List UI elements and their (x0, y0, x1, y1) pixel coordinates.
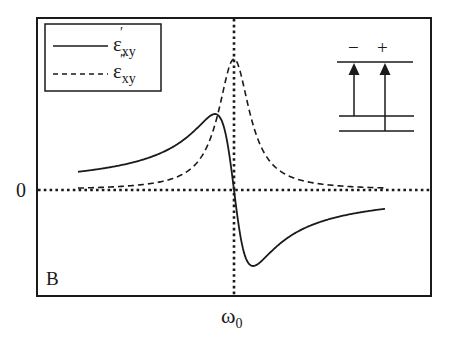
transition-label-plus: + (377, 38, 388, 57)
legend-prime-mark: ″ (120, 53, 126, 67)
panel-label: B (46, 269, 59, 288)
energy-level-diagram (337, 62, 414, 131)
legend-label-eps-double-prime: ε″xy (113, 61, 136, 86)
omega-symbol: ω (221, 303, 235, 328)
transition-label-minus: − (348, 38, 359, 57)
y-zero-tick-label: 0 (16, 180, 26, 200)
arrow-up-icon (380, 63, 391, 75)
omega-subscript: 0 (235, 316, 242, 331)
legend-prime-mark: ′ (120, 26, 123, 40)
x-center-tick-label: ω0 (221, 305, 242, 331)
legend-subscript: xy (122, 71, 136, 86)
arrow-up-icon (349, 63, 360, 75)
legend-box (45, 24, 161, 91)
